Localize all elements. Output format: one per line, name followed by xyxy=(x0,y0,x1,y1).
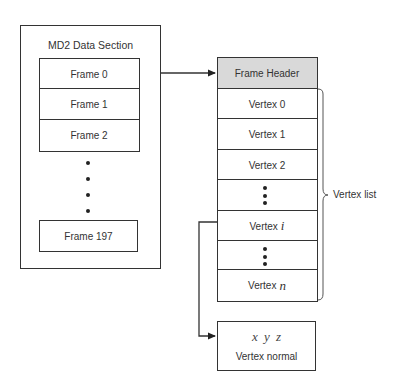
vertex-list-brace xyxy=(318,89,328,300)
vertex-index: i xyxy=(281,218,285,234)
vertex-normal-box: x y z Vertex normal xyxy=(217,321,316,371)
vertex-i-to-normal-arrow xyxy=(199,222,217,336)
vertex-label: Vertex xyxy=(250,221,278,232)
ellipsis-dot xyxy=(86,161,90,165)
frame-header: Frame Header xyxy=(217,57,318,91)
vertex-0: Vertex 0 xyxy=(217,88,318,122)
vertex-label: Vertex xyxy=(249,160,277,171)
vertex-label: Vertex xyxy=(248,280,276,291)
ellipsis-dot xyxy=(263,201,267,205)
frame-2: Frame 2 xyxy=(39,119,140,153)
vertex-label: Vertex xyxy=(249,99,277,110)
frame-structure: Frame Header Vertex 0 Vertex 1 Vertex 2 … xyxy=(217,57,316,300)
vertex-index: 2 xyxy=(280,160,286,171)
vertex-index: n xyxy=(279,278,286,294)
vertex-index: 0 xyxy=(280,99,286,110)
ellipsis-dot xyxy=(263,186,267,190)
ellipsis-dot xyxy=(263,247,267,251)
vertex-index: 1 xyxy=(280,129,286,140)
ellipsis-dot xyxy=(86,209,90,213)
vertex-ellipsis-1 xyxy=(217,179,318,213)
vertex-normal-label: Vertex normal xyxy=(218,351,315,362)
vertex-label: Vertex xyxy=(249,129,277,140)
frame-0: Frame 0 xyxy=(39,58,140,92)
md2-data-section-title: MD2 Data Section xyxy=(20,39,161,51)
ellipsis-dot xyxy=(86,193,90,197)
frame-1: Frame 1 xyxy=(39,88,140,122)
frame-197: Frame 197 xyxy=(39,220,138,252)
vertex-list-label: Vertex list xyxy=(333,189,376,200)
ellipsis-dot xyxy=(263,262,267,266)
ellipsis-dot xyxy=(263,194,267,198)
vertex-i: Vertexi xyxy=(217,210,318,244)
vertex-normal-coords: x y z xyxy=(218,329,315,345)
vertex-2: Vertex 2 xyxy=(217,149,318,183)
vertex-1: Vertex 1 xyxy=(217,118,318,152)
ellipsis-dot xyxy=(86,177,90,181)
ellipsis-dot xyxy=(263,255,267,259)
frames-list: Frame 0 Frame 1 Frame 2 xyxy=(39,58,138,150)
vertex-n: Vertexn xyxy=(217,269,318,302)
